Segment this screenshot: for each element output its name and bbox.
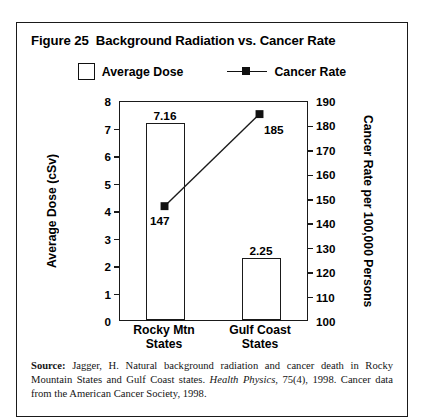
y-axis-right-tick-label: 140 [316,218,335,230]
y-axis-right-tick-label: 130 [316,243,335,255]
y-axis-right-tick-label: 190 [316,96,335,108]
y-axis-left-tick-label: 4 [105,206,111,218]
y-axis-right-tick [308,199,313,201]
legend-line-marker-icon [227,66,267,78]
x-axis-category-rocky-mtn: Rocky Mtn States [133,324,195,351]
y-axis-left-tick [114,266,119,268]
plot-area: 012345678100110120130140150160170180190 … [119,101,308,321]
y-axis-left-tick [114,211,119,213]
y-axis-right-tick-label: 110 [316,292,335,304]
source-label: Source: [31,360,66,371]
legend-bar-swatch-icon [78,63,95,80]
y-axis-left-tick [114,294,119,296]
y-axis-left-tick-label: 5 [105,179,111,191]
y-axis-left-tick-label: 1 [105,289,111,301]
line-value-label: 185 [264,123,284,137]
y-axis-right-tick [308,248,313,250]
y-axis-left-tick-label: 0 [105,316,111,328]
legend-label-average-dose: Average Dose [102,65,184,79]
y-axis-right-tick-label: 180 [316,120,335,132]
figure-title: Figure 25 Background Radiation vs. Cance… [31,33,336,48]
y-axis-right-tick [308,175,313,177]
y-axis-right-tick [308,126,313,128]
y-axis-left-tick-label: 3 [105,234,111,246]
y-axis-left-tick [114,184,119,186]
figure-container: Figure 25 Background Radiation vs. Cance… [16,22,408,417]
y-axis-right-tick [308,223,313,225]
y-axis-right-tick-label: 160 [316,169,335,181]
y-axis-left-title: Average Dose (cSv) [45,101,59,321]
y-axis-right-tick-label: 170 [316,145,335,157]
chart-legend: Average Dose Cancer Rate [17,63,407,80]
y-axis-right-title: Cancer Rate per 100,000 Persons [361,93,375,329]
y-axis-right-tick-label: 100 [316,316,335,328]
y-axis-left-tick [114,239,119,241]
legend-item-average-dose: Average Dose [78,63,184,80]
y-axis-left-tick-label: 8 [105,96,111,108]
y-axis-left-tick [114,156,119,158]
y-axis-left-tick-label: 7 [105,124,111,136]
source-journal: Health Physics [210,374,276,385]
y-axis-left-tick-label: 2 [105,261,111,273]
source-note: Source: Jagger, H. Natural background ra… [31,359,393,401]
y-axis-left-tick [114,129,119,131]
y-axis-left-tick-label: 6 [105,151,111,163]
x-axis-category-gulf-coast: Gulf Coast States [229,324,291,351]
y-axis-right-tick [308,297,313,299]
y-axis-right-tick [308,272,313,274]
line-value-label: 147 [150,214,170,228]
y-axis-right-tick-label: 150 [316,194,335,206]
y-axis-right-tick [308,150,313,152]
data-labels-layer: 147185 [120,102,307,320]
legend-item-cancer-rate: Cancer Rate [227,65,346,79]
legend-label-cancer-rate: Cancer Rate [274,65,346,79]
y-axis-right-tick-label: 120 [316,267,335,279]
